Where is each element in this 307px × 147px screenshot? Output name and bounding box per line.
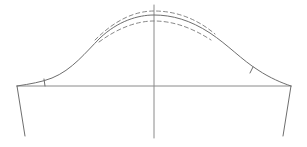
left-underarm-seam xyxy=(17,86,25,136)
sleeve-cap-diagram xyxy=(0,0,307,147)
diagram-svg xyxy=(0,0,307,147)
right-notch-mark xyxy=(250,67,253,73)
right-underarm-seam xyxy=(283,86,291,136)
